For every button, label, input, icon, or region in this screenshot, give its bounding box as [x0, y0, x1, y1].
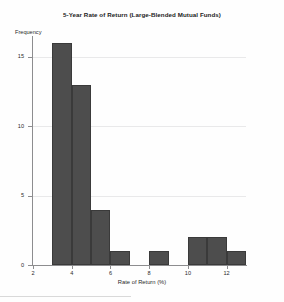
y-tick-label-10: 10: [2, 123, 24, 129]
x-tick-mark-6: [110, 266, 111, 269]
histogram-bar: [207, 237, 226, 265]
y-tick-mark-10: [28, 126, 32, 127]
histogram-bar: [227, 251, 246, 265]
x-tick-mark-8: [149, 266, 150, 269]
x-tick-label-12: 12: [217, 270, 237, 276]
y-tick-mark-15: [28, 57, 32, 58]
histogram-bar: [52, 43, 71, 265]
plot-area: [33, 36, 246, 265]
x-tick-mark-10: [188, 266, 189, 269]
x-tick-mark-12: [227, 266, 228, 269]
histogram-bar: [149, 251, 168, 265]
y-tick-mark-0: [28, 265, 32, 266]
x-tick-mark-2: [33, 266, 34, 269]
y-axis-title: Frequency: [15, 29, 41, 35]
histogram-chart: 5-Year Rate of Return (Large-Blended Mut…: [0, 0, 284, 302]
x-tick-label-8: 8: [139, 270, 159, 276]
histogram-bar: [91, 210, 110, 266]
y-tick-label-15: 15: [2, 53, 24, 59]
x-tick-mark-4: [72, 266, 73, 269]
y-tick-label-5: 5: [2, 192, 24, 198]
bottom-rule: [0, 296, 131, 297]
x-tick-label-10: 10: [178, 270, 198, 276]
y-axis-line: [32, 36, 33, 266]
histogram-bar: [72, 85, 91, 265]
x-axis-title: Rate of Return (%): [0, 279, 284, 285]
x-tick-label-2: 2: [23, 270, 43, 276]
histogram-bar: [188, 237, 207, 265]
x-axis-line: [32, 265, 247, 266]
chart-title: 5-Year Rate of Return (Large-Blended Mut…: [0, 11, 284, 18]
x-tick-label-6: 6: [100, 270, 120, 276]
y-tick-mark-5: [28, 196, 32, 197]
y-tick-label-0: 0: [2, 262, 24, 268]
x-tick-label-4: 4: [62, 270, 82, 276]
histogram-bar: [110, 251, 129, 265]
